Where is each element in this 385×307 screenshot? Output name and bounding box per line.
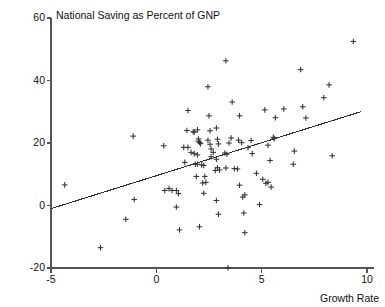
data-point-marker xyxy=(248,138,254,144)
data-point-marker xyxy=(203,180,209,186)
data-point-marker xyxy=(223,165,229,171)
plot-area xyxy=(0,0,385,307)
data-point-marker xyxy=(262,107,268,113)
data-point-marker xyxy=(235,166,241,172)
data-point-marker xyxy=(326,82,332,88)
data-point-marker xyxy=(202,174,208,180)
trend-line xyxy=(51,112,361,209)
x-tick-label: -5 xyxy=(31,274,71,285)
data-point-marker xyxy=(229,99,235,105)
data-point-marker xyxy=(195,152,201,158)
data-point-marker xyxy=(197,140,203,146)
chart-title: National Saving as Percent of GNP xyxy=(56,9,220,21)
y-tick-label: -20 xyxy=(30,262,45,273)
data-point-marker xyxy=(226,140,232,146)
data-point-marker xyxy=(174,204,180,210)
data-point-marker xyxy=(298,67,304,73)
y-tick-label: 60 xyxy=(33,12,45,23)
data-point-marker xyxy=(62,182,68,188)
data-point-marker xyxy=(161,143,167,149)
x-tick-label: 5 xyxy=(242,274,282,285)
data-point-marker xyxy=(228,135,234,141)
data-point-marker xyxy=(245,145,251,151)
data-point-marker xyxy=(185,108,191,114)
data-point-marker xyxy=(182,160,188,166)
data-point-marker xyxy=(272,136,278,142)
data-point-marker xyxy=(184,128,190,134)
data-point-marker xyxy=(236,137,242,143)
data-point-marker xyxy=(267,158,273,164)
data-point-marker xyxy=(329,153,335,159)
data-point-marker xyxy=(98,245,104,251)
data-point-marker xyxy=(241,210,247,216)
data-point-marker xyxy=(223,58,229,64)
data-point-marker xyxy=(292,148,298,154)
data-point-marker xyxy=(300,104,306,110)
x-tick-label: 0 xyxy=(136,274,176,285)
data-point-marker xyxy=(197,224,203,230)
data-point-marker xyxy=(216,211,222,217)
data-point-marker xyxy=(205,84,211,90)
data-point-marker xyxy=(239,140,245,146)
data-point-marker xyxy=(321,95,327,101)
data-point-marker xyxy=(194,174,200,180)
data-point-marker xyxy=(185,145,191,151)
data-point-marker xyxy=(130,133,136,139)
data-point-marker xyxy=(351,39,357,45)
data-point-marker xyxy=(273,115,279,121)
data-point-marker xyxy=(281,106,287,112)
x-tick-label: 10 xyxy=(347,274,385,285)
scatter-chart: National Saving as Percent of GNP Growth… xyxy=(0,0,385,307)
data-point-marker xyxy=(206,113,212,119)
data-point-marker xyxy=(191,151,197,157)
data-point-marker xyxy=(200,180,206,186)
data-point-marker xyxy=(216,141,222,147)
data-points xyxy=(62,39,356,271)
y-tick-label: 20 xyxy=(33,137,45,148)
y-tick-label: 0 xyxy=(39,200,45,211)
data-point-marker xyxy=(237,182,243,188)
data-point-marker xyxy=(215,136,221,142)
data-point-marker xyxy=(290,161,296,167)
data-point-marker xyxy=(131,197,137,203)
data-point-marker xyxy=(265,142,271,148)
data-point-marker xyxy=(201,191,207,197)
data-point-marker xyxy=(237,113,243,119)
data-point-marker xyxy=(260,176,266,182)
data-point-marker xyxy=(303,115,309,121)
data-point-marker xyxy=(188,150,194,156)
data-point-marker xyxy=(242,230,248,236)
regression-line xyxy=(51,112,361,209)
data-point-marker xyxy=(268,184,274,190)
data-point-marker xyxy=(254,171,260,177)
data-point-marker xyxy=(214,198,220,204)
data-point-marker xyxy=(214,125,220,131)
data-point-marker xyxy=(249,151,255,157)
data-point-marker xyxy=(207,128,213,134)
data-point-marker xyxy=(177,227,183,233)
data-point-marker xyxy=(123,216,129,222)
y-tick-label: 40 xyxy=(33,75,45,86)
data-point-marker xyxy=(225,265,231,271)
data-point-marker xyxy=(257,202,263,208)
x-axis-title: Growth Rate xyxy=(320,292,379,304)
